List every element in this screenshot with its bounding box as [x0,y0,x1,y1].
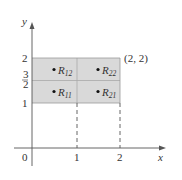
y-tick-frac-den: 2 [23,78,29,90]
sample-point [52,68,55,71]
y-axis-label: y [21,15,27,27]
sample-point [96,68,99,71]
x-tick-2: 2 [117,151,123,163]
diagram-canvas: R12 R22 R11 R21 (2, 2) y x 0 1 2 1 2 3 2 [0,0,182,180]
x-arrow-icon [159,146,166,151]
origin-label: 0 [22,151,28,163]
corner-label: (2, 2) [124,52,148,65]
x-tick-1: 1 [74,151,80,163]
y-tick-1: 1 [22,97,28,109]
y-tick-2: 2 [22,52,28,64]
y-arrow-icon [30,22,35,29]
sample-point [96,90,99,93]
x-axis-label: x [157,151,163,163]
sample-point [52,90,55,93]
